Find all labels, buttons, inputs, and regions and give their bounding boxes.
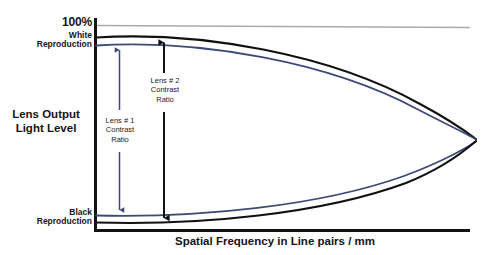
y-axis-title-line1: Lens Output: [2, 108, 90, 122]
y-axis-title-line2: Light Level: [2, 122, 90, 136]
lens2-lower-curve: [96, 141, 476, 223]
black-reproduction-line2: Reproduction: [8, 217, 92, 226]
lens2-label-line2: Contrast: [137, 85, 193, 94]
lens1-label-line3: Ratio: [92, 135, 148, 144]
lens2-contrast-ratio-label: Lens # 2 Contrast Ratio: [137, 76, 193, 104]
lens2-label-line1: Lens # 2: [137, 76, 193, 85]
y-axis-title: Lens Output Light Level: [2, 108, 90, 135]
hundred-percent-gridline: [95, 26, 470, 28]
lens1-label-line1: Lens # 1: [92, 116, 148, 125]
hundred-percent-label: 100%: [40, 16, 92, 29]
lens1-contrast-ratio-label: Lens # 1 Contrast Ratio: [92, 116, 148, 144]
lens1-label-line2: Contrast: [92, 125, 148, 134]
white-reproduction-line2: Reproduction: [8, 40, 92, 49]
black-reproduction-label: Black Reproduction: [8, 208, 92, 226]
x-axis-title: Spatial Frequency in Line pairs / mm: [110, 235, 440, 247]
white-reproduction-label: White Reproduction: [8, 31, 92, 49]
lens1-lower-curve: [96, 142, 476, 216]
lens2-label-line3: Ratio: [137, 95, 193, 104]
lens-contrast-ratio-figure: 100% White Reproduction Black Reproducti…: [0, 0, 488, 255]
